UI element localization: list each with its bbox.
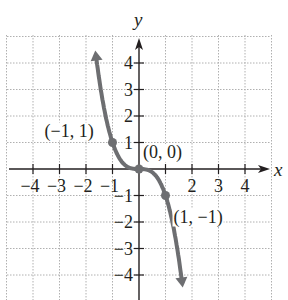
point-label: (0, 0) (143, 142, 182, 163)
curve-arrow-down-icon (175, 277, 187, 288)
y-tick-label: −2 (114, 212, 133, 232)
y-tick-label: −4 (114, 265, 133, 285)
x-tick-label: 3 (214, 176, 223, 196)
data-point (161, 191, 170, 200)
curve-arrow-up-icon (91, 51, 103, 62)
data-point (108, 138, 117, 147)
point-label: (−1, 1) (45, 121, 94, 142)
x-tick-label: 2 (188, 176, 197, 196)
y-tick-label: −3 (114, 239, 133, 259)
y-tick-label: 4 (124, 53, 133, 73)
y-tick-label: 1 (124, 133, 133, 153)
x-tick-label: −2 (73, 176, 92, 196)
point-annotations: (−1, 1)(0, 0)(1, −1) (44, 121, 224, 228)
y-tick-label: −1 (114, 186, 133, 206)
x-tick-label: 4 (241, 176, 250, 196)
data-point (135, 165, 144, 174)
x-tick-label: −3 (47, 176, 66, 196)
y-axis-label: y (132, 9, 143, 30)
y-tick-label: 3 (124, 80, 133, 100)
y-tick-label: 2 (124, 106, 133, 126)
cubic-function-graph: −4−3−2−1234−4−3−2−11234 (−1, 1)(0, 0)(1,… (0, 0, 288, 300)
x-tick-label: −4 (20, 176, 39, 196)
x-axis-label: x (273, 159, 283, 180)
point-label: (1, −1) (174, 207, 223, 228)
